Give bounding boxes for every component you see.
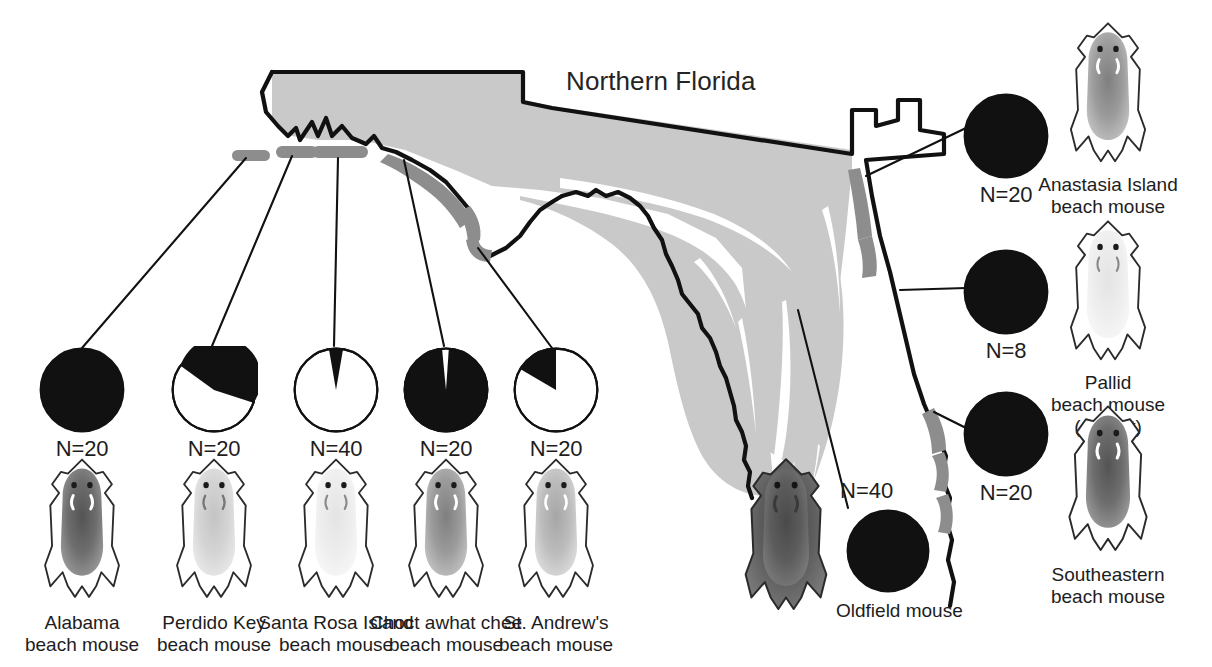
pie-chart-santa-rosa-island bbox=[292, 346, 380, 434]
leader-anastasia bbox=[866, 128, 966, 176]
pie-group-perdido-key: N=20 bbox=[170, 346, 258, 464]
mouse-label-anastasia-island: Anastasia Island beach mouse bbox=[1038, 174, 1177, 218]
mouse-label-perdido-key: Perdido Key beach mouse bbox=[157, 612, 271, 656]
mouse-pelt-pallid bbox=[1062, 216, 1154, 368]
pie-group-choctawhatchee: N=20 bbox=[402, 346, 490, 464]
pie-group-anastasia-island: N=20 bbox=[962, 92, 1050, 210]
mouse-illustration-pallid: Pallid beach mouse (extinct) bbox=[1062, 216, 1154, 426]
mouse-illustration-anastasia-island: Anastasia Island beach mouse bbox=[1062, 18, 1154, 208]
mouse-illustration-oldfield bbox=[738, 448, 834, 628]
mouse-illustration-southeastern: Southeastern beach mouse bbox=[1062, 400, 1154, 610]
pie-chart-southeastern bbox=[962, 390, 1050, 478]
mouse-illustration-choctawhatchee: Choct awhat chee beach mouse bbox=[402, 454, 490, 654]
mouse-pelt-santa-rosa-island bbox=[292, 454, 380, 606]
pie-group-santa-rosa-island: N=40 bbox=[292, 346, 380, 464]
mouse-pelt-oldfield bbox=[738, 448, 834, 624]
pie-n-southeastern: N=20 bbox=[980, 480, 1032, 506]
mouse-label-alabama: Alabama beach mouse bbox=[25, 612, 139, 656]
mouse-label-st-andrews: St. Andrew's beach mouse bbox=[499, 612, 613, 656]
mouse-illustration-perdido-key: Perdido Key beach mouse bbox=[170, 454, 258, 654]
pie-chart-st-andrews bbox=[512, 346, 600, 434]
mouse-pelt-choctawhatchee bbox=[402, 454, 490, 606]
pie-group-alabama: N=20 bbox=[38, 346, 126, 464]
pie-chart-perdido-key bbox=[170, 346, 258, 434]
mouse-pelt-southeastern bbox=[1062, 400, 1154, 560]
pie-n-pallid: N=8 bbox=[986, 338, 1026, 364]
mouse-label-oldfield: Oldfield mouse bbox=[836, 600, 963, 622]
pie-group-southeastern: N=20 bbox=[962, 390, 1050, 508]
map-title: Northern Florida bbox=[566, 66, 755, 97]
mouse-pelt-anastasia-island bbox=[1062, 18, 1154, 170]
leader-st-andrews bbox=[478, 248, 552, 348]
mouse-pelt-alabama bbox=[38, 454, 126, 606]
mouse-pelt-perdido-key bbox=[170, 454, 258, 606]
mouse-illustration-alabama: Alabama beach mouse bbox=[38, 454, 126, 654]
pie-group-pallid: N=8 bbox=[962, 248, 1050, 366]
mouse-illustration-st-andrews: St. Andrew's beach mouse bbox=[512, 454, 600, 654]
mouse-pelt-st-andrews bbox=[512, 454, 600, 606]
leader-alabama bbox=[82, 158, 246, 348]
pie-group-oldfield bbox=[845, 508, 931, 604]
mouse-illustration-santa-rosa-island: Santa Rosa Island beach mouse bbox=[292, 454, 380, 654]
leader-santa-rosa bbox=[334, 158, 338, 346]
pie-n-anastasia-island: N=20 bbox=[980, 182, 1032, 208]
pie-chart-choctawhatchee bbox=[402, 346, 490, 434]
pie-group-st-andrews: N=20 bbox=[512, 346, 600, 464]
pie-chart-anastasia-island bbox=[962, 92, 1050, 180]
pie-chart-pallid bbox=[962, 248, 1050, 336]
beach-mouse-distribution-figure: Northern Florida N=20 N=20 N=40 N=20 bbox=[0, 0, 1212, 667]
pie-chart-oldfield bbox=[845, 508, 931, 594]
leader-pallid bbox=[900, 288, 966, 290]
pie-chart-alabama bbox=[38, 346, 126, 434]
mouse-label-southeastern: Southeastern beach mouse bbox=[1051, 564, 1165, 608]
pie-n-oldfield: N=40 bbox=[840, 478, 893, 504]
